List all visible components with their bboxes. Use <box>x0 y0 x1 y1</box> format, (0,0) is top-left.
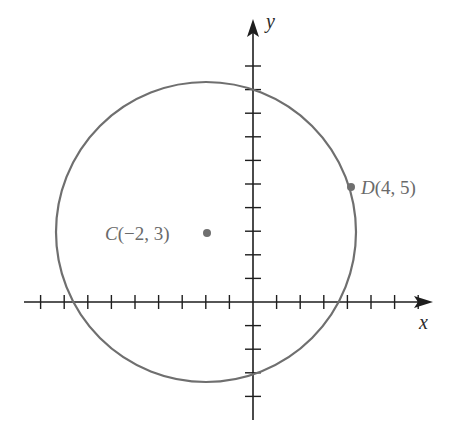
point-c-label: C(−2, 3) <box>105 223 170 245</box>
x-axis: x <box>24 295 433 333</box>
x-axis-label: x <box>418 311 428 333</box>
point-c-name: C <box>105 223 118 244</box>
y-axis-label: y <box>264 10 275 33</box>
point-d-label: D(4, 5) <box>360 177 416 199</box>
y-axis: y <box>245 10 275 420</box>
point-c-coords: (−2, 3) <box>118 223 170 245</box>
point-d-name: D <box>360 177 375 198</box>
point-d-dot <box>347 183 355 191</box>
point-c-dot <box>203 229 211 237</box>
point-c: C(−2, 3) <box>105 223 211 245</box>
point-d-coords: (4, 5) <box>375 177 416 199</box>
coordinate-plane: x y C(−2, 3) D(4, 5) <box>0 0 460 436</box>
point-d: D(4, 5) <box>347 177 416 199</box>
